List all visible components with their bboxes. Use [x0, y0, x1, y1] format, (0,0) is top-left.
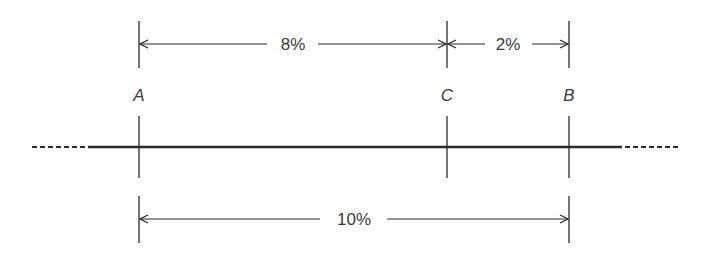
dimension-label-10: 10%: [337, 210, 371, 229]
dimension-c-b: 2%: [448, 35, 568, 54]
dimension-label-8: 8%: [281, 35, 306, 54]
dimension-a-b: 10%: [140, 210, 568, 229]
point-label-c: C: [441, 86, 454, 105]
point-label-b: B: [563, 86, 574, 105]
point-label-a: A: [132, 86, 144, 105]
dimension-label-2: 2%: [496, 35, 521, 54]
dimension-a-c: 8%: [140, 35, 446, 54]
number-line-diagram: A C B 8% 2% 10%: [0, 0, 712, 261]
